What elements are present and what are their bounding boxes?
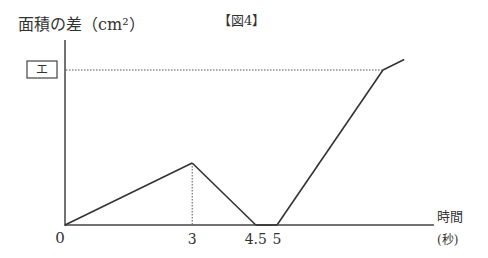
chart-title: 【図4】 bbox=[218, 13, 265, 28]
series-segment bbox=[277, 70, 383, 225]
series-segment bbox=[65, 163, 192, 225]
x-axis-label: 時間 bbox=[437, 209, 463, 224]
y-marker-label: エ bbox=[36, 63, 48, 77]
x-axis-unit: (秒) bbox=[437, 233, 458, 247]
series-segment bbox=[383, 59, 404, 70]
x-tick-label: 3 bbox=[188, 231, 197, 247]
series-segment bbox=[192, 163, 256, 225]
y-axis-label: 面積の差（cm²） bbox=[18, 15, 145, 34]
chart-svg: 面積の差（cm²） 【図4】 エ 34.55 0 時間 (秒) bbox=[0, 0, 488, 258]
origin-label: 0 bbox=[55, 229, 65, 247]
x-tick-label: 5 bbox=[273, 231, 282, 247]
x-tick-label: 4.5 bbox=[245, 231, 267, 247]
series-line bbox=[65, 59, 404, 225]
